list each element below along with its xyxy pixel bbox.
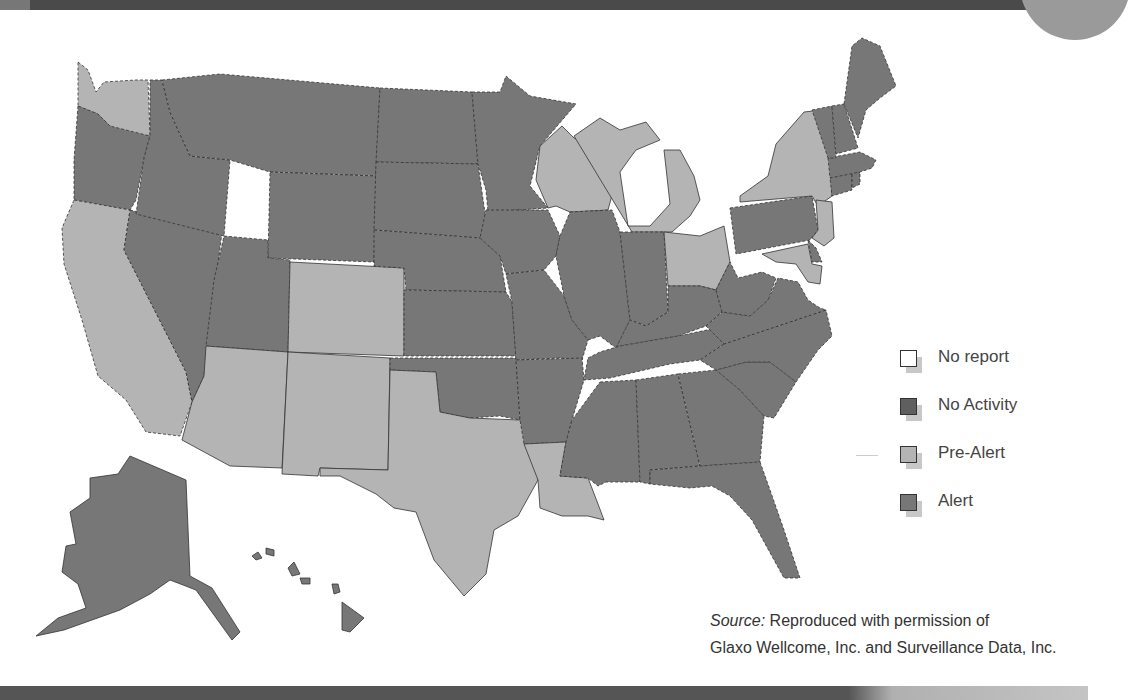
state-RI: [852, 172, 860, 188]
legend-label: No Activity: [938, 395, 1017, 415]
legend-item-no-activity: No Activity: [900, 398, 1017, 446]
state-FL: [650, 462, 800, 578]
legend-label: Pre-Alert: [938, 443, 1005, 463]
source-prefix: Source:: [710, 612, 765, 629]
legend-item-alert: Alert: [900, 494, 1017, 542]
map-legend: No report No Activity Pre-Alert Alert: [900, 350, 1017, 542]
state-KS: [404, 290, 516, 356]
source-line-2: Glaxo Wellcome, Inc. and Surveillance Da…: [710, 634, 1057, 661]
legend-item-no-report: No report: [900, 350, 1017, 398]
state-HI: [252, 548, 364, 632]
legend-label: Alert: [938, 491, 973, 511]
state-CO: [288, 262, 404, 356]
state-ND: [376, 88, 478, 164]
swatch-no-report: [900, 350, 917, 367]
state-AK: [36, 456, 240, 640]
source-note: Source: Reproduced with permission of Gl…: [710, 607, 1057, 661]
state-WY: [268, 172, 376, 262]
swatch-no-activity: [900, 398, 917, 415]
state-SD: [374, 162, 486, 238]
legend-label: No report: [938, 347, 1009, 367]
state-OH: [664, 226, 730, 290]
swatch-pre-alert: [900, 446, 917, 463]
state-NM: [282, 352, 390, 476]
source-line-1: Reproduced with permission of: [765, 612, 989, 629]
legend-item-pre-alert: Pre-Alert: [900, 446, 1017, 494]
state-ME: [844, 38, 896, 138]
legend-tick-mark: [856, 455, 878, 456]
swatch-alert: [900, 494, 917, 511]
bottom-border-bar: [0, 686, 1088, 700]
